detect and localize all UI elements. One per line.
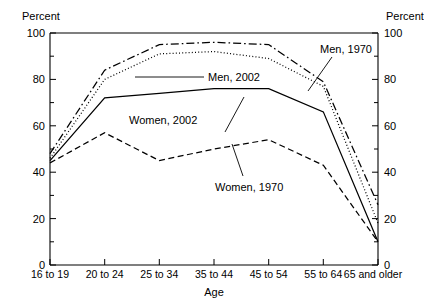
leader-women-1970 <box>232 144 243 176</box>
x-axis-title: Age <box>204 286 224 298</box>
y-tick-label-right-20: 20 <box>384 213 396 225</box>
y-tick-label-right-100: 100 <box>384 27 402 39</box>
y-tick-label-right-80: 80 <box>384 73 396 85</box>
y-tick-label-right-60: 60 <box>384 120 396 132</box>
series-annotation-women-1970: Women, 1970 <box>215 181 283 193</box>
leader-women-2002 <box>225 97 244 132</box>
x-category-label-16-to-19: 16 to 19 <box>31 268 69 280</box>
y-tick-label-100: 100 <box>27 27 45 39</box>
x-category-label-45-to-54: 45 to 54 <box>250 268 288 280</box>
right-axis-title: Percent <box>386 10 424 22</box>
y-tick-label-80: 80 <box>33 73 45 85</box>
y-tick-label-right-40: 40 <box>384 166 396 178</box>
left-axis-title: Percent <box>22 10 60 22</box>
x-category-label-55-to-64: 55 to 64 <box>304 268 342 280</box>
y-tick-label-20: 20 <box>33 213 45 225</box>
x-axis-ticks <box>50 259 378 265</box>
series-annotation-women-2002: Women, 2002 <box>129 114 197 126</box>
y-tick-label-60: 60 <box>33 120 45 132</box>
labor-force-participation-line-chart: Percent Percent <box>0 0 424 304</box>
series-line-women-1970 <box>50 133 378 242</box>
x-category-label-35-to-44: 35 to 44 <box>195 268 233 280</box>
chart-container: Percent Percent <box>0 0 424 304</box>
x-category-label-20-to-24: 20 to 24 <box>86 268 124 280</box>
series-line-women-2002 <box>50 89 378 242</box>
y-tick-label-40: 40 <box>33 166 45 178</box>
x-category-label-25-to-34: 25 to 34 <box>140 268 178 280</box>
series-annotation-men-1970: Men, 1970 <box>320 43 372 55</box>
x-category-label-65-and-older: 65 and older <box>344 268 403 280</box>
series-annotation-men-2002: Men, 2002 <box>208 71 260 83</box>
leader-men-1970 <box>308 57 332 91</box>
